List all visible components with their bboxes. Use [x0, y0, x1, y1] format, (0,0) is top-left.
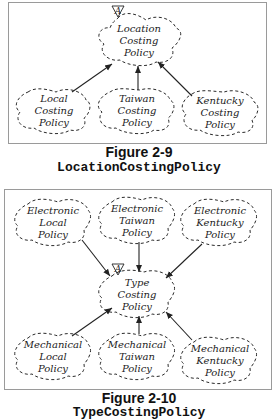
svg-text:Mechanical: Mechanical [107, 339, 167, 350]
class-electronic-local-policy: Electronic Local Policy [15, 199, 91, 245]
class-name-line: Policy [123, 47, 154, 58]
class-taiwan-costing-policy: Taiwan Costing Policy [98, 89, 174, 134]
abstract-adornment-icon: A [112, 6, 124, 17]
class-name-line: Location [116, 23, 161, 34]
abstract-adornment-icon: A [112, 264, 124, 275]
class-local-costing-policy: Local Costing Policy [16, 89, 90, 134]
svg-text:Mechanical: Mechanical [190, 343, 250, 354]
class-name-line: Costing [120, 35, 159, 46]
inheritance-arrow [158, 62, 192, 96]
svg-text:Electronic: Electronic [110, 203, 163, 214]
svg-text:Policy: Policy [204, 229, 235, 240]
svg-text:Local: Local [38, 351, 66, 362]
figure-2-9-caption-class: LocationCostingPolicy [0, 160, 278, 175]
svg-text:Kentucky: Kentucky [195, 95, 244, 106]
svg-text:Electronic: Electronic [193, 205, 246, 216]
svg-text:Costing: Costing [35, 105, 74, 116]
inheritance-arrow [72, 64, 112, 92]
figure-2-10-caption-title: Figure 2-10 [0, 390, 278, 406]
svg-text:Taiwan: Taiwan [119, 351, 155, 362]
inheritance-arrow [82, 240, 110, 276]
svg-text:Policy: Policy [37, 229, 68, 240]
svg-text:Kentucky: Kentucky [195, 355, 244, 366]
svg-text:Taiwan: Taiwan [119, 93, 155, 104]
svg-text:Kentucky: Kentucky [195, 217, 244, 228]
inheritance-arrow [166, 244, 202, 278]
svg-text:Costing: Costing [118, 105, 157, 116]
class-mechanical-taiwan-policy: Mechanical Taiwan Policy [99, 333, 175, 379]
svg-text:Policy: Policy [121, 363, 152, 374]
svg-text:Policy: Policy [37, 363, 68, 374]
svg-text:Electronic: Electronic [26, 205, 79, 216]
svg-text:Policy: Policy [38, 117, 69, 128]
svg-text:Type: Type [125, 277, 150, 288]
svg-text:Policy: Policy [121, 301, 152, 312]
svg-text:Policy: Policy [121, 117, 152, 128]
svg-text:Local: Local [38, 217, 66, 228]
svg-text:Taiwan: Taiwan [119, 215, 155, 226]
svg-text:Costing: Costing [201, 107, 240, 118]
class-mechanical-local-policy: Mechanical Local Policy [15, 333, 91, 379]
figure-2-9-caption-title: Figure 2-9 [0, 144, 278, 160]
svg-text:A: A [114, 264, 122, 274]
figure-2-10-caption-class: TypeCostingPolicy [0, 405, 278, 420]
class-kentucky-costing-policy: Kentucky Costing Policy [182, 91, 258, 136]
svg-text:Policy: Policy [204, 367, 235, 378]
class-location-costing-policy: Location Costing Policy [99, 14, 181, 66]
inheritance-arrow [166, 312, 192, 340]
class-type-costing-policy: Type Costing Policy [99, 270, 175, 317]
class-electronic-kentucky-policy: Electronic Kentucky Policy [181, 199, 257, 245]
svg-text:Mechanical: Mechanical [23, 339, 83, 350]
svg-text:Local: Local [39, 93, 67, 104]
svg-text:Policy: Policy [204, 119, 235, 130]
svg-text:A: A [114, 6, 122, 16]
inheritance-arrow [72, 308, 112, 336]
svg-text:Policy: Policy [121, 227, 152, 238]
class-electronic-taiwan-policy: Electronic Taiwan Policy [99, 197, 175, 243]
svg-text:Costing: Costing [118, 289, 157, 300]
class-mechanical-kentucky-policy: Mechanical Kentucky Policy [181, 337, 257, 383]
